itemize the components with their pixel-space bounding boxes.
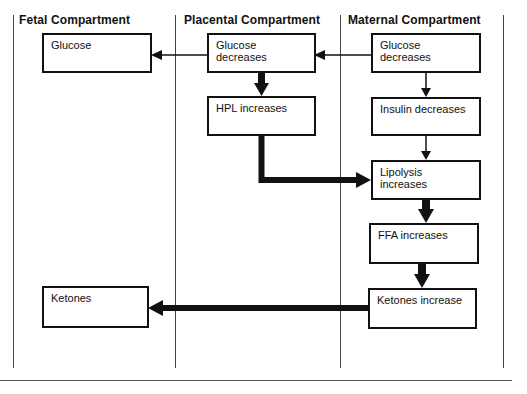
node-label: FFA increases <box>378 229 448 241</box>
node-placental-glucose-decreases: Glucose decreases <box>207 33 316 73</box>
arrow-hpl-to-lipolysis <box>262 135 372 188</box>
node-label: Glucose <box>51 39 91 51</box>
arrow-glucose-to-hpl <box>254 72 269 96</box>
node-label: Insulin decreases <box>380 103 466 115</box>
node-ffa-increases: FFA increases <box>369 223 479 264</box>
node-label: HPL increases <box>216 102 287 114</box>
node-label: Glucose decreases <box>216 39 267 63</box>
arrow-insulin-to-lipolysis <box>421 135 431 160</box>
node-fetal-ketones: Ketones <box>42 286 149 328</box>
arrow-ketones-to-fetal <box>148 300 368 316</box>
node-ketones-increase: Ketones increase <box>368 288 477 329</box>
node-label: Lipolysis increases <box>380 166 427 190</box>
arrow-lipolysis-to-ffa <box>418 199 434 223</box>
arrow-ffa-to-ketones <box>414 263 430 288</box>
node-maternal-glucose-decreases: Glucose decreases <box>371 33 481 73</box>
node-fetal-glucose: Glucose <box>42 33 152 73</box>
node-label: Ketones <box>51 292 91 304</box>
arrow-glucose-to-insulin <box>421 72 431 97</box>
node-label: Ketones increase <box>377 294 462 306</box>
node-hpl-increases: HPL increases <box>207 96 316 136</box>
arrow-maternal-to-placental-glucose <box>314 50 371 60</box>
node-lipolysis-increases: Lipolysis increases <box>371 160 481 200</box>
node-insulin-decreases: Insulin decreases <box>371 97 481 136</box>
node-label: Glucose decreases <box>380 39 431 63</box>
arrow-placental-to-fetal-glucose <box>151 50 207 60</box>
